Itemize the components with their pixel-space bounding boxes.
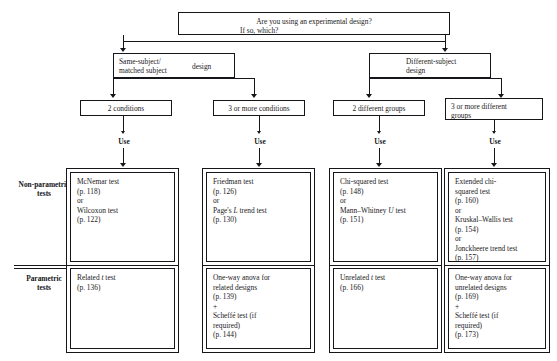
test-box-nonparametric-2: Friedman test (p. 126) or Page's L trend…: [206, 172, 311, 262]
use-label-2: Use: [240, 137, 280, 146]
use-arrow-bottom-2-icon: [256, 163, 262, 167]
branch-box-2-different-groups: 2 different groups: [333, 100, 425, 116]
right-design-drop-1: [369, 78, 370, 95]
root-question-line1: Are you using an experimental design?: [184, 17, 444, 26]
design-same-subject-line3: design: [192, 62, 211, 71]
test-box-nonparametric-3: Chi-squared test (p. 148) or Mann–Whitne…: [333, 172, 438, 262]
design-same-subject-line1: Same-subject/: [119, 57, 229, 66]
use-stem-bottom-3: [379, 148, 380, 164]
branch-box-3-or-more-conditions: 3 or more conditions: [213, 100, 305, 116]
use-arrow-bottom-3-icon: [376, 163, 382, 167]
use-arrow-top-1-icon: [121, 131, 125, 134]
root-question-line2: If so, which?: [184, 26, 444, 35]
row-label-parametric-line1: Parametric: [14, 274, 74, 283]
test-box-parametric-2-text: One-way anova for related designs (p. 13…: [207, 269, 310, 343]
test-box-parametric-4: One-way anova for unrelated designs (p. …: [448, 268, 546, 349]
row-label-non-parametric-line2: tests: [14, 189, 74, 198]
test-column-divider-3: [329, 265, 442, 266]
branch-2-different-groups-text: 2 different groups: [334, 101, 424, 116]
test-box-parametric-4-text: One-way anova for unrelated designs (p. …: [449, 269, 545, 343]
right-design-split-bar: [369, 78, 501, 79]
left-design-drop-1: [113, 78, 114, 95]
branch-2-different-groups-line1: 2 different groups: [339, 104, 419, 113]
row-label-non-parametric: Non-parametric tests: [14, 180, 74, 199]
left-design-drop-2: [254, 78, 255, 95]
branch-2-conditions-text: 2 conditions: [81, 101, 171, 116]
root-question-box: Are you using an experimental design? If…: [178, 12, 450, 35]
test-box-nonparametric-2-text: Friedman test (p. 126) or Page's L trend…: [207, 173, 310, 228]
branch-box-3-or-more-different-groups: 3 or more different groups: [445, 98, 543, 120]
design-different-subject-text: Different-subject design: [370, 54, 490, 78]
test-column-divider-4: [444, 265, 550, 266]
left-branch-arrow-1-icon: [110, 94, 116, 98]
branch-box-2-conditions: 2 conditions: [80, 100, 172, 116]
root-arrow-right-icon: [442, 48, 448, 52]
design-box-same-subject: Same-subject/ matched subject design: [113, 53, 235, 78]
use-stem-top-3: [379, 116, 380, 132]
use-arrow-bottom-1-icon: [120, 163, 126, 167]
test-box-nonparametric-1-text: McNemar test (p. 118) or Wilcoxon test (…: [71, 173, 174, 228]
design-same-subject-line2: matched subject: [119, 66, 229, 75]
flowchart-canvas: Are you using an experimental design? If…: [0, 0, 557, 361]
use-stem-bottom-2: [259, 148, 260, 164]
use-stem-top-2: [259, 116, 260, 132]
test-column-divider-1: [66, 265, 179, 266]
root-arrow-left-icon: [120, 48, 126, 52]
design-box-different-subject: Different-subject design: [369, 53, 491, 78]
left-design-split-bar: [113, 78, 254, 79]
branch-2-conditions-line1: 2 conditions: [86, 104, 166, 113]
use-arrow-top-3-icon: [377, 131, 381, 134]
test-box-nonparametric-4-text: Extended chi- squared test (p. 160) or K…: [449, 173, 545, 266]
use-label-1: Use: [104, 137, 144, 146]
design-different-subject-line1: Different-subject: [406, 57, 485, 66]
branch-3-or-more-groups-line1: 3 or more different: [451, 102, 537, 111]
test-box-parametric-1: Related t test (p. 136): [70, 268, 175, 349]
parametric-3-line-0: Unrelated t test: [340, 273, 432, 283]
right-branch-arrow-1-icon: [366, 94, 372, 98]
use-stem-top-1: [123, 116, 124, 132]
nonparametric-2-line-3: Page's L trend test: [213, 206, 305, 216]
row-label-parametric-line2: tests: [14, 283, 74, 292]
row-label-parametric: Parametric tests: [14, 274, 74, 293]
parametric-1-line-0: Related t test: [77, 273, 169, 283]
branch-3-or-more-groups-line2: groups: [451, 111, 537, 120]
root-split-bar: [123, 41, 445, 42]
use-label-4: Use: [475, 137, 515, 146]
test-box-nonparametric-3-text: Chi-squared test (p. 148) or Mann–Whitne…: [334, 173, 437, 228]
test-box-parametric-2: One-way anova for related designs (p. 13…: [206, 268, 311, 349]
use-arrow-top-4-icon: [492, 131, 496, 134]
use-arrow-bottom-4-icon: [491, 163, 497, 167]
left-branch-arrow-2-icon: [251, 94, 257, 98]
row-separator-left-top: [14, 265, 66, 266]
test-box-parametric-1-text: Related t test (p. 136): [71, 269, 174, 295]
branch-3-or-more-conditions-line1: 3 or more conditions: [219, 104, 299, 113]
use-stem-bottom-1: [123, 148, 124, 164]
test-box-parametric-3-text: Unrelated t test (p. 166): [334, 269, 437, 295]
test-box-nonparametric-1: McNemar test (p. 118) or Wilcoxon test (…: [70, 172, 175, 262]
design-same-subject-text: Same-subject/ matched subject design: [114, 54, 234, 78]
right-design-drop-2: [501, 78, 502, 95]
use-arrow-top-2-icon: [257, 131, 261, 134]
row-label-non-parametric-line1: Non-parametric: [14, 180, 74, 189]
test-box-parametric-3: Unrelated t test (p. 166): [333, 268, 438, 349]
use-label-3: Use: [360, 137, 400, 146]
design-different-subject-line2: design: [406, 66, 485, 75]
branch-3-or-more-conditions-text: 3 or more conditions: [214, 101, 304, 116]
use-stem-bottom-4: [494, 148, 495, 164]
nonparametric-3-line-3: Mann–Whitney U test: [340, 206, 432, 216]
test-column-divider-2: [202, 265, 315, 266]
test-box-nonparametric-4: Extended chi- squared test (p. 160) or K…: [448, 172, 546, 262]
root-question-text: Are you using an experimental design? If…: [179, 13, 449, 38]
row-separator-left-bottom: [14, 268, 66, 269]
